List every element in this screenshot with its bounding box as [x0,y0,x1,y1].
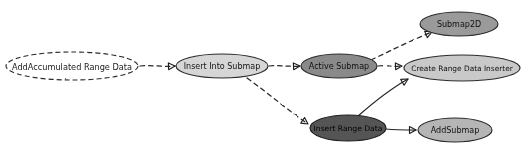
diagram-node-submap_2d[interactable]: Submap2D [420,12,498,36]
diagram-edge [378,63,402,70]
node-ellipse [420,12,498,36]
diagram-node-create_range_data_inserter[interactable]: Create Range Data Inserter [404,55,520,81]
node-shape [418,118,492,142]
diagram-node-add_accumulated_range_data[interactable]: AddAccumulated Range Data [6,52,138,80]
diagram-node-insert_into_submap[interactable]: Insert Into Submap [176,54,268,78]
node-shape [6,52,138,80]
node-shape [176,54,268,78]
node-ellipse [301,54,377,78]
edge-line [386,129,416,130]
edge-line [247,78,308,124]
diagram-edge [140,63,175,70]
diagram-node-insert_range_data[interactable]: Insert Range Data [310,115,386,141]
node-ellipse [418,118,492,142]
diagram-edge [269,63,300,70]
node-shape [301,54,377,78]
node-shape [310,115,386,141]
edge-line [378,66,402,67]
edge-arrowhead-icon [401,79,408,85]
edge-line [358,79,408,116]
diagram-edge [358,79,408,116]
nodes-layer: AddAccumulated Range DataInsert Into Sub… [6,12,520,142]
node-ellipse [404,55,520,81]
node-shape [420,12,498,36]
diagram-edge [386,127,416,134]
diagram-node-active_submap[interactable]: Active Submap [301,54,377,78]
diagram-node-add_submap[interactable]: AddSubmap [418,118,492,142]
edge-line [269,66,300,67]
diagram-svg: AddAccumulated Range DataInsert Into Sub… [0,0,524,158]
edges-layer [140,31,432,133]
node-ellipse [310,115,386,141]
edge-line [371,32,432,60]
node-shape [404,55,520,81]
diagram-edge [371,31,432,60]
node-ellipse [6,52,138,80]
node-ellipse [176,54,268,78]
diagram-edge [247,78,308,124]
edge-line [140,66,175,67]
diagram-canvas: AddAccumulated Range DataInsert Into Sub… [0,0,524,158]
